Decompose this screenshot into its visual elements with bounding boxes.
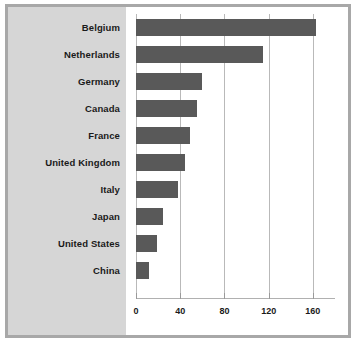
bar-row: United Kingdom <box>8 149 348 176</box>
bar-row: Italy <box>8 176 348 203</box>
bar-united-kingdom <box>136 154 185 171</box>
category-label-canada: Canada <box>8 95 120 122</box>
category-label-netherlands: Netherlands <box>8 41 120 68</box>
bar-germany <box>136 73 202 90</box>
tick-mark-80 <box>224 293 225 299</box>
chart-figure: BelgiumNetherlandsGermanyCanadaFranceUni… <box>0 0 356 342</box>
bar-france <box>136 127 190 144</box>
bar-track <box>136 14 348 41</box>
bar-canada <box>136 100 197 117</box>
bar-united-states <box>136 235 157 252</box>
bar-row: United States <box>8 230 348 257</box>
tick-label-80: 80 <box>219 306 229 316</box>
tick-mark-0 <box>136 293 137 299</box>
bar-track <box>136 203 348 230</box>
tick-label-0: 0 <box>133 306 138 316</box>
chart-frame: BelgiumNetherlandsGermanyCanadaFranceUni… <box>5 4 351 338</box>
bar-belgium <box>136 19 316 36</box>
tick-mark-120 <box>269 293 270 299</box>
bar-row: France <box>8 122 348 149</box>
bar-row: China <box>8 257 348 284</box>
bar-japan <box>136 208 163 225</box>
category-label-china: China <box>8 257 120 284</box>
tick-label-40: 40 <box>175 306 185 316</box>
tick-label-120: 120 <box>261 306 276 316</box>
bar-netherlands <box>136 46 263 63</box>
bar-track <box>136 95 348 122</box>
bar-rows: BelgiumNetherlandsGermanyCanadaFranceUni… <box>8 14 348 284</box>
tick-label-160: 160 <box>305 306 320 316</box>
bar-row: Netherlands <box>8 41 348 68</box>
bar-row: Japan <box>8 203 348 230</box>
bar-track <box>136 257 348 284</box>
bar-track <box>136 68 348 95</box>
bar-track <box>136 41 348 68</box>
category-label-united-states: United States <box>8 230 120 257</box>
bar-row: Canada <box>8 95 348 122</box>
category-label-italy: Italy <box>8 176 120 203</box>
bar-row: Belgium <box>8 14 348 41</box>
tick-mark-160 <box>313 293 314 299</box>
category-label-germany: Germany <box>8 68 120 95</box>
bar-track <box>136 176 348 203</box>
bar-china <box>136 262 149 279</box>
chart-body: BelgiumNetherlandsGermanyCanadaFranceUni… <box>8 7 348 335</box>
tick-mark-40 <box>180 293 181 299</box>
bar-track <box>136 230 348 257</box>
category-label-france: France <box>8 122 120 149</box>
bar-row: Germany <box>8 68 348 95</box>
bar-track <box>136 149 348 176</box>
bar-track <box>136 122 348 149</box>
bar-italy <box>136 181 178 198</box>
category-label-united-kingdom: United Kingdom <box>8 149 120 176</box>
x-axis-ticks: 04080120160 <box>136 298 335 324</box>
category-label-belgium: Belgium <box>8 14 120 41</box>
category-label-japan: Japan <box>8 203 120 230</box>
